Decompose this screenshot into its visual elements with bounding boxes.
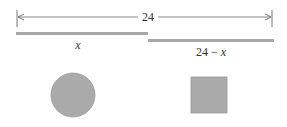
piece-right-label: 24 − x — [196, 45, 227, 59]
square-shape — [191, 77, 227, 113]
total-length-dimension: 24 — [17, 10, 272, 27]
total-length-label: 24 — [142, 10, 154, 24]
wire-diagram: 24 x 24 − x — [0, 0, 287, 127]
wire-piece-right — [148, 39, 274, 42]
piece-left-label: x — [74, 38, 81, 52]
circle-shape — [51, 73, 95, 117]
wire-piece-left — [16, 32, 148, 35]
